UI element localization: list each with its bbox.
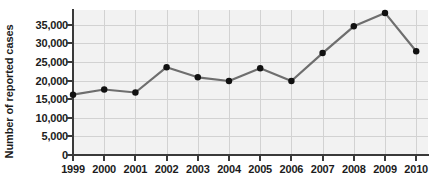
data-point-marker <box>70 91 76 97</box>
x-axis-tick-mark <box>134 155 136 161</box>
x-axis-tick-mark <box>166 155 168 161</box>
data-point-marker <box>382 10 388 16</box>
x-axis-tick-mark <box>197 155 199 161</box>
x-axis-tick-mark <box>384 155 386 161</box>
y-axis-tick-mark <box>66 135 74 137</box>
data-point-marker <box>319 50 325 56</box>
line-chart: Number of reported cases 05,00010,00015,… <box>0 0 442 183</box>
x-axis-tick-label: 2004 <box>217 163 241 175</box>
x-axis-tick-mark <box>103 155 105 161</box>
x-axis-tick-label: 2005 <box>248 163 272 175</box>
data-point-marker <box>288 78 294 84</box>
y-axis-tick-mark <box>66 117 74 119</box>
x-axis-tick-label: 2007 <box>311 163 335 175</box>
x-axis-tick-mark <box>415 155 417 161</box>
y-axis-tick-mark <box>66 61 74 63</box>
x-axis-tick-mark <box>322 155 324 161</box>
data-point-marker <box>101 86 107 92</box>
x-axis-tick-mark <box>290 155 292 161</box>
x-axis-tick-label: 1999 <box>61 163 85 175</box>
x-axis-tick-label: 2006 <box>280 163 304 175</box>
series-line <box>73 13 416 95</box>
x-axis-tick-label: 2010 <box>404 163 428 175</box>
series-marker-group <box>70 10 420 98</box>
data-point-marker <box>132 89 138 95</box>
y-axis-tick-mark <box>66 98 74 100</box>
data-point-marker <box>257 65 263 71</box>
data-point-marker <box>413 48 419 54</box>
x-axis-tick-label: 2000 <box>92 163 116 175</box>
x-axis-tick-mark <box>228 155 230 161</box>
y-axis-tick-mark <box>66 80 74 82</box>
data-point-marker <box>351 23 357 29</box>
x-axis-tick-label: 2009 <box>373 163 397 175</box>
x-axis-tick-label: 2008 <box>342 163 366 175</box>
x-axis-tick-mark <box>259 155 261 161</box>
y-axis-tick-mark <box>66 24 74 26</box>
data-point-marker <box>226 78 232 84</box>
data-point-marker <box>195 74 201 80</box>
x-axis-tick-mark <box>72 155 74 161</box>
data-point-marker <box>163 64 169 70</box>
x-axis-tick-label: 2001 <box>124 163 148 175</box>
y-axis-tick-mark <box>66 42 74 44</box>
x-axis-tick-label: 2002 <box>155 163 179 175</box>
x-axis-tick-label: 2003 <box>186 163 210 175</box>
x-axis-tick-mark <box>353 155 355 161</box>
